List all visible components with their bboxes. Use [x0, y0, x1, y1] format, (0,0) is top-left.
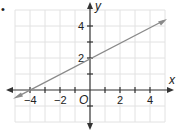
- line-arrow-right-icon: [158, 19, 167, 26]
- x-axis-label: x: [168, 73, 176, 87]
- x-axis-right-arrow-icon: [167, 87, 174, 93]
- y-axis: [87, 2, 93, 130]
- x-tick-label: 4: [147, 94, 153, 106]
- coordinate-plane: • −4 −2 2 4 4 2 O x y: [0, 0, 177, 131]
- y-tick-label: 4: [78, 20, 84, 32]
- x-tick-label: −4: [24, 94, 37, 106]
- y-axis-up-arrow-icon: [87, 2, 93, 9]
- y-axis-label: y: [94, 0, 102, 13]
- y-tick-label: 2: [78, 52, 84, 64]
- origin-label: O: [79, 93, 88, 107]
- x-axis-left-arrow-icon: [6, 87, 13, 93]
- x-tick-label: 2: [117, 94, 123, 106]
- y-axis-down-arrow-icon: [87, 123, 93, 130]
- bullet: •: [1, 3, 5, 15]
- x-tick-label: −2: [54, 94, 67, 106]
